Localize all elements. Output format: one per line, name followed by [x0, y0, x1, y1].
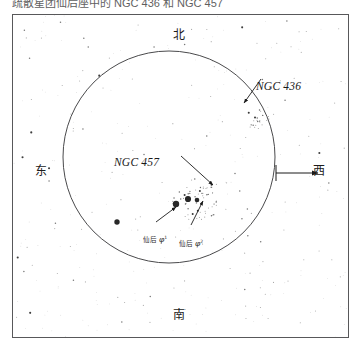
label-cassiopeia-phi1: 仙后φ1	[143, 234, 167, 244]
label-ngc436: NGC 436	[256, 80, 301, 92]
cardinal-label-west: 西	[313, 165, 325, 177]
cardinal-label-north: 北	[173, 29, 185, 41]
star-chart-frame: 北 南 东 西 NGC 436 NGC 457 仙后φ1 仙后φ2	[12, 14, 349, 338]
cas-phi1-leader-line	[156, 207, 176, 222]
label-cassiopeia-phi2: 仙后φ2	[179, 238, 203, 248]
cas-phi1-constellation: 仙后	[143, 236, 157, 244]
cas-phi2-superscript: 2	[200, 239, 203, 244]
cas-phi1-superscript: 1	[164, 235, 167, 240]
cas-phi2-leader-line	[191, 201, 203, 225]
label-ngc457: NGC 457	[114, 156, 159, 168]
cardinal-label-east: 东	[35, 165, 47, 177]
cas-phi2-constellation: 仙后	[179, 240, 193, 248]
ngc457-leader-line	[181, 156, 213, 185]
chart-overlay	[13, 15, 349, 338]
chart-caption: 疏散星团仙后座中的 NGC 436 和 NGC 457	[0, 0, 361, 14]
field-of-view-circle	[63, 51, 275, 263]
cardinal-label-south: 南	[173, 309, 185, 321]
caption-text: 疏散星团仙后座中的 NGC 436 和 NGC 457	[12, 0, 223, 10]
